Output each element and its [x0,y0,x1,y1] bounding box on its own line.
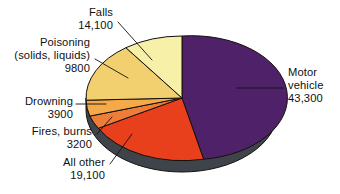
label-all-other-title: All other [63,156,105,168]
pie-chart-figure: Falls 14,100 Poisoning (solids, liquids)… [0,0,340,194]
label-motor-vehicle-title: Motor [288,66,317,78]
label-falls-value: 14,100 [78,19,113,31]
callout-motor-vehicle: Motor vehicle 43,300 [288,66,324,104]
label-fires-value: 3200 [67,138,92,150]
label-poisoning-title: Poisoning [40,36,90,48]
pie-chart-svg: Falls 14,100 Poisoning (solids, liquids)… [0,0,340,194]
callout-all-other: All other 19,100 [63,156,105,181]
label-all-other-value: 19,100 [70,169,105,181]
slice-motor-vehicle[interactable] [182,36,287,160]
label-poisoning-value: 9800 [65,62,90,74]
pie-slices-group [86,36,287,161]
callout-falls: Falls 14,100 [78,6,113,31]
label-fires-title: Fires, burns [32,125,93,137]
label-drowning-title: Drowning [25,95,73,107]
label-motor-vehicle-subtitle: vehicle [288,79,324,91]
label-falls-title: Falls [89,6,113,18]
label-motor-vehicle-value: 43,300 [288,92,323,104]
callout-drowning: Drowning 3900 [25,95,73,120]
callout-poisoning: Poisoning (solids, liquids) 9800 [14,36,90,74]
label-poisoning-subtitle: (solids, liquids) [14,49,90,61]
label-drowning-value: 3900 [48,108,73,120]
callout-fires-burns: Fires, burns 3200 [32,125,93,150]
